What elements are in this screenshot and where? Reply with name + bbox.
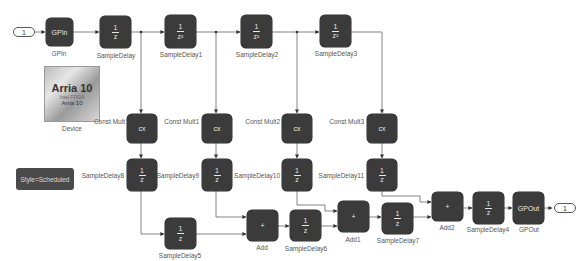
device-caption: Device bbox=[62, 125, 82, 132]
constmult-caption: Const Mult bbox=[94, 118, 125, 125]
device-block[interactable]: Arria 10 Intel FPGA Arria 10 bbox=[44, 66, 100, 122]
gpin-text: GPIn bbox=[52, 29, 68, 36]
style-scheduled-block[interactable]: Style=Scheduled bbox=[16, 168, 74, 190]
constmult2-text: cx bbox=[294, 125, 301, 132]
sampledelay1-caption: SampleDelay1 bbox=[160, 51, 202, 58]
sampledelay2-block[interactable]: 1z² bbox=[241, 15, 272, 48]
add1-symbol: + bbox=[351, 213, 355, 220]
gpin-block[interactable]: GPIn bbox=[46, 18, 73, 46]
sampledelay3-caption: SampleDelay3 bbox=[315, 50, 357, 57]
sampledelay5-block[interactable]: 1z bbox=[165, 218, 196, 249]
sampledelay-caption: SampleDelay bbox=[97, 52, 136, 59]
constmult1-text: cx bbox=[214, 125, 221, 132]
constmult1-caption: Const Mult1 bbox=[164, 118, 199, 125]
block-diagram-canvas: 1 1 GPIn GPIn 1z SampleDelay 1z² SampleD… bbox=[0, 0, 585, 261]
sampledelay8-caption: SampleDelay8 bbox=[82, 172, 124, 179]
sampledelay4-block[interactable]: 1z bbox=[473, 192, 504, 224]
add2-caption: Add2 bbox=[439, 224, 454, 231]
constmult2-caption: Const Mult2 bbox=[245, 118, 280, 125]
delay-transfer-fn: 1z² bbox=[332, 23, 339, 40]
add-symbol: + bbox=[260, 222, 264, 229]
sampledelay7-block[interactable]: 1z bbox=[382, 203, 413, 234]
delay-transfer-fn: 1z bbox=[112, 24, 119, 41]
delay-transfer-fn: 1z bbox=[379, 167, 386, 184]
add2-block[interactable]: + bbox=[432, 192, 463, 221]
delay-transfer-fn: 1z bbox=[177, 225, 184, 242]
sampledelay9-caption: SampleDelay9 bbox=[157, 172, 199, 179]
delay-transfer-fn: 1z² bbox=[177, 23, 184, 40]
constmult2-block[interactable]: cx bbox=[282, 114, 312, 143]
inport-1[interactable]: 1 bbox=[13, 27, 35, 37]
constmult1-block[interactable]: cx bbox=[202, 114, 232, 143]
add2-symbol: + bbox=[445, 203, 449, 210]
style-label: Style=Scheduled bbox=[21, 176, 70, 183]
sampledelay5-caption: SampleDelay5 bbox=[159, 252, 201, 259]
delay-transfer-fn: 1z bbox=[214, 167, 221, 184]
delay-transfer-fn: 1z bbox=[139, 167, 146, 184]
constmult-block[interactable]: cx bbox=[127, 114, 157, 143]
sampledelay11-block[interactable]: 1z bbox=[367, 159, 397, 191]
constmult3-caption: Const Mult3 bbox=[329, 118, 364, 125]
sampledelay2-caption: SampleDelay2 bbox=[236, 51, 278, 58]
delay-transfer-fn: 1z bbox=[302, 217, 309, 234]
add-caption: Add bbox=[256, 244, 268, 251]
sampledelay11-caption: SampleDelay11 bbox=[319, 172, 364, 179]
delay-transfer-fn: 1z bbox=[485, 200, 492, 217]
add1-block[interactable]: + bbox=[338, 201, 369, 232]
sampledelay4-caption: SampleDelay4 bbox=[467, 226, 509, 233]
outport-1[interactable]: 1 bbox=[554, 203, 576, 213]
add-block[interactable]: + bbox=[247, 210, 278, 241]
sampledelay1-block[interactable]: 1z² bbox=[165, 15, 196, 48]
gpout-block[interactable]: GPOut bbox=[513, 192, 544, 224]
sampledelay10-caption: SampleDelay10 bbox=[234, 172, 280, 179]
sampledelay10-block[interactable]: 1z bbox=[282, 159, 312, 191]
sampledelay-block[interactable]: 1z bbox=[100, 16, 131, 48]
sampledelay6-block[interactable]: 1z bbox=[290, 210, 321, 241]
device-subtitle: Arria 10 bbox=[61, 100, 82, 106]
sampledelay3-block[interactable]: 1z² bbox=[320, 15, 351, 47]
device-family: Arria 10 bbox=[52, 82, 93, 94]
constmult3-block[interactable]: cx bbox=[367, 114, 397, 143]
gpin-caption: GPIn bbox=[52, 50, 67, 57]
delay-transfer-fn: 1z bbox=[294, 167, 301, 184]
sampledelay8-block[interactable]: 1z bbox=[127, 159, 157, 191]
gpout-text: GPOut bbox=[518, 205, 539, 212]
sampledelay6-caption: SampleDelay6 bbox=[285, 245, 327, 252]
add1-caption: Add1 bbox=[345, 236, 360, 243]
constmult3-text: cx bbox=[379, 125, 386, 132]
delay-transfer-fn: 1z² bbox=[253, 23, 260, 40]
sampledelay7-caption: SampleDelay7 bbox=[377, 237, 419, 244]
sampledelay9-block[interactable]: 1z bbox=[202, 159, 232, 191]
inport-label: 1 bbox=[22, 29, 26, 36]
gpout-caption: GPOut bbox=[519, 226, 539, 233]
outport-label: 1 bbox=[563, 205, 567, 212]
delay-transfer-fn: 1z bbox=[394, 210, 401, 227]
constmult-text: cx bbox=[139, 125, 146, 132]
